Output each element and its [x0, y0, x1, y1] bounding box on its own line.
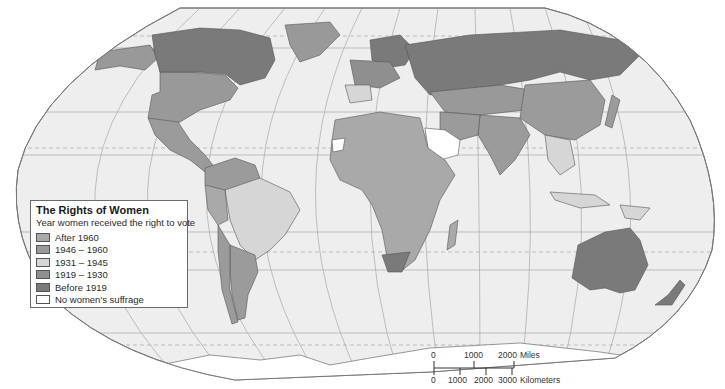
km-tick-2000: 2000 [474, 375, 493, 385]
legend-label: Before 1919 [55, 282, 107, 293]
legend-item: 1919 – 1930 [36, 269, 182, 282]
legend-item: 1931 – 1945 [36, 256, 182, 269]
km-unit: Kilometers [520, 375, 560, 385]
legend-item: Before 1919 [36, 281, 182, 294]
legend-subtitle: Year women received the right to vote [36, 217, 182, 229]
legend-item: After 1960 [36, 231, 182, 244]
swatch-1946-1960 [36, 245, 50, 254]
legend-label: 1946 – 1960 [55, 244, 108, 255]
iberia [345, 85, 372, 103]
miles-tick-2000: 2000 [498, 350, 517, 360]
swatch-after-1960 [36, 233, 50, 242]
scale-bar: 0 1000 2000 Miles 0 1000 2000 3000 Kilom… [428, 350, 578, 386]
legend-item: No women's suffrage [36, 294, 182, 307]
miles-tick-1000: 1000 [464, 350, 483, 360]
world-map [0, 0, 725, 389]
km-tick-1000: 1000 [448, 375, 467, 385]
legend-title: The Rights of Women [36, 204, 182, 217]
legend-label: After 1960 [55, 232, 99, 243]
swatch-no-suffrage [36, 295, 50, 304]
legend: The Rights of Women Year women received … [30, 200, 188, 308]
km-tick-0: 0 [431, 375, 436, 385]
western-sahara [332, 138, 345, 152]
legend-item: 1946 – 1960 [36, 244, 182, 257]
swatch-1919-1930 [36, 270, 50, 279]
legend-label: No women's suffrage [55, 294, 144, 305]
alaska [95, 45, 158, 70]
swatch-1931-1945 [36, 258, 50, 267]
legend-label: 1919 – 1930 [55, 269, 108, 280]
miles-unit: Miles [520, 350, 540, 360]
swatch-before-1919 [36, 283, 50, 292]
legend-label: 1931 – 1945 [55, 257, 108, 268]
km-tick-3000: 3000 [498, 375, 517, 385]
miles-tick-0: 0 [431, 350, 436, 360]
